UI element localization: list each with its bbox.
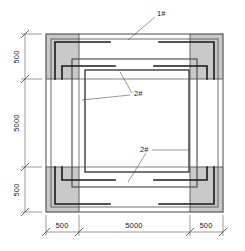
tag-label-1h: 1# [157,9,166,18]
foundation-plan-drawing: 1# 2# 2# 500 5000 500 [0,0,245,251]
dim-label-h-5000: 5000 [125,221,143,230]
dim-label-h-500-right: 500 [199,221,212,230]
tag-label-2h-lower: 2# [140,145,149,154]
dim-label-v-500-top: 500 [12,50,21,63]
dim-label-v-5000: 5000 [12,114,21,132]
dimension-chain-vertical [21,30,42,216]
dim-label-v-500-bottom: 500 [12,183,21,196]
leader-line-1h [128,17,155,40]
dim-label-h-500-left: 500 [55,221,68,230]
tag-label-2h-upper: 2# [134,89,143,98]
central-slab-region [85,70,189,172]
drawing-canvas: 1# 2# 2# 500 5000 500 [0,0,245,251]
